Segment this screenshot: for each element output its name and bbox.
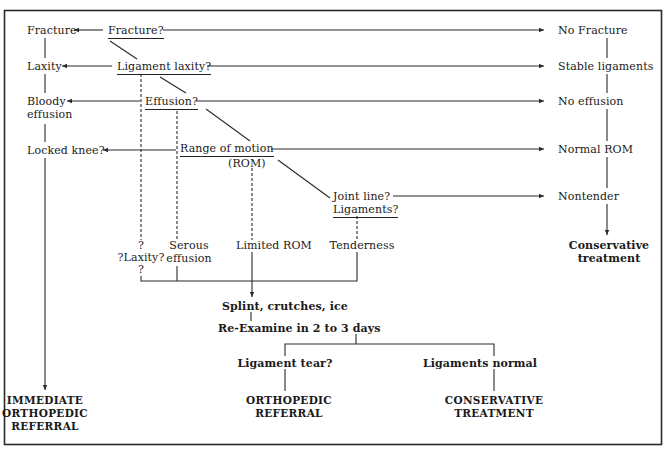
node-limited-rom: Limited ROM xyxy=(236,239,312,252)
node-conservative-final-line2: TREATMENT xyxy=(454,407,534,420)
node-stable-ligaments: Stable ligaments xyxy=(558,60,653,73)
node-orthopedic-referral-line2: REFERRAL xyxy=(255,407,323,420)
node-immediate-referral-line1: IMMEDIATE xyxy=(7,394,83,407)
node-ligament-laxity-question: Ligament laxity? xyxy=(117,60,211,75)
node-reexamine: Re-Examine in 2 to 3 days xyxy=(218,322,381,335)
node-joint-line-question: Joint line? xyxy=(333,190,390,203)
node-immediate-referral-line3: REFERRAL xyxy=(11,420,79,433)
diagram-frame xyxy=(5,11,662,445)
node-rom-abbrev: (ROM) xyxy=(228,157,266,170)
node-laxity-uncertain-q2: ? xyxy=(138,263,144,276)
node-fracture: Fracture xyxy=(27,24,77,37)
node-conservative-final-line1: CONSERVATIVE xyxy=(445,394,543,407)
node-ligaments-normal: Ligaments normal xyxy=(423,357,537,370)
node-conservative-treatment-line1: Conservative xyxy=(569,239,649,252)
node-range-of-motion-question: Range of motion xyxy=(180,142,274,157)
node-normal-rom: Normal ROM xyxy=(558,143,633,156)
node-immediate-referral-line2: ORTHOPEDIC xyxy=(2,407,88,420)
node-serous-effusion-line2: effusion xyxy=(166,252,211,265)
node-no-fracture: No Fracture xyxy=(558,24,628,37)
node-effusion-question: Effusion? xyxy=(145,95,198,110)
node-tenderness: Tenderness xyxy=(330,239,395,252)
node-splint-crutches-ice: Splint, crutches, ice xyxy=(222,300,348,313)
node-laxity: Laxity xyxy=(27,60,62,73)
node-locked-knee: Locked knee? xyxy=(27,144,105,157)
node-conservative-treatment-line2: treatment xyxy=(578,252,641,265)
node-ligaments-question: Ligaments? xyxy=(333,203,398,218)
node-bloody-effusion-line2: effusion xyxy=(27,108,72,121)
node-nontender: Nontender xyxy=(558,190,619,203)
node-ligament-tear-question: Ligament tear? xyxy=(237,357,332,370)
flowchart-canvas: Fracture Fracture? No Fracture Laxity Li… xyxy=(0,0,666,455)
node-orthopedic-referral-line1: ORTHOPEDIC xyxy=(246,394,332,407)
node-fracture-question: Fracture? xyxy=(108,24,164,39)
node-bloody-effusion-line1: Bloody xyxy=(27,95,66,108)
node-no-effusion: No effusion xyxy=(558,95,623,108)
node-serous-effusion-line1: Serous xyxy=(169,239,208,252)
